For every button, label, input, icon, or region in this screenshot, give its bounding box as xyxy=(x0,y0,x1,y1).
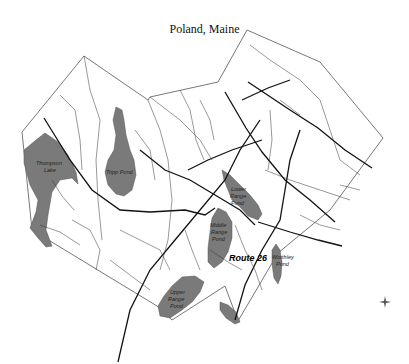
label-worthley-pond-2: Pond xyxy=(276,261,290,267)
label-middle-range-pond-3: Pond xyxy=(212,236,226,242)
label-lower-range-pond-3: Pond xyxy=(231,200,245,206)
label-middle-range-pond-2: Range xyxy=(211,229,227,235)
label-tripp-pond: Tripp Pond xyxy=(106,169,133,175)
compass-rose-icon xyxy=(379,296,391,308)
label-upper-range-pond-3: Pond xyxy=(170,303,184,309)
label-middle-range-pond-1: Middle xyxy=(210,222,226,228)
label-thompson-lake-1: Thompson xyxy=(36,160,62,166)
label-lower-range-pond-2: Range xyxy=(230,193,246,199)
town-map[interactable]: Thompson Lake Tripp Pond Lower Range Pon… xyxy=(0,0,409,364)
label-worthley-pond-1: Worthley xyxy=(272,254,295,260)
label-lower-range-pond-1: Lower xyxy=(231,186,247,192)
label-upper-range-pond-1: Upper xyxy=(170,289,186,295)
label-route-26: Route 26 xyxy=(229,253,268,263)
label-thompson-lake-2: Lake xyxy=(44,167,56,173)
label-upper-range-pond-2: Range xyxy=(168,296,184,302)
